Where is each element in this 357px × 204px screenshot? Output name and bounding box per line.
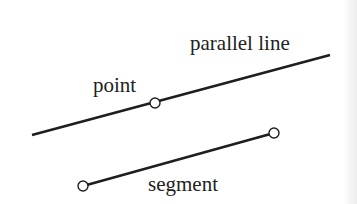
diagram-svg: parallel line point segment bbox=[0, 0, 357, 204]
segment-endpoint-left-icon bbox=[78, 181, 88, 191]
parallel-line-label: parallel line bbox=[190, 31, 290, 55]
diagram-canvas: parallel line point segment bbox=[0, 0, 357, 204]
point-marker-icon bbox=[150, 98, 160, 108]
segment-endpoint-right-icon bbox=[269, 128, 279, 138]
segment-label: segment bbox=[148, 172, 218, 196]
parallel-line bbox=[32, 55, 330, 135]
point-label: point bbox=[93, 73, 136, 97]
